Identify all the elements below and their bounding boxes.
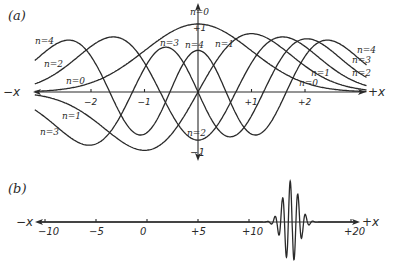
panel-a: (a) −2−1+1+2 −x +x +1 −1 n=4n=2n=0n=1n=3… <box>3 3 386 161</box>
curve-label: n=0 <box>66 76 85 86</box>
pos-x-label: +x <box>368 85 386 99</box>
panel-b-label: (b) <box>8 181 26 196</box>
y-plus-one-label: +1 <box>193 23 206 33</box>
wave-packet-curve <box>40 181 354 260</box>
neg-x-label: −x <box>3 85 21 99</box>
tick-label: −1 <box>138 97 151 107</box>
pos-x-label-b: +x <box>362 215 380 229</box>
curve-label: n=4 <box>185 40 204 50</box>
curve-label: n=4 <box>35 36 54 46</box>
curve-label: n=2 <box>187 128 206 138</box>
tick-label: +5 <box>191 226 206 237</box>
neg-x-label-b: −x <box>16 215 34 229</box>
tick-label: −2 <box>84 97 98 107</box>
curve-label: n=4 <box>357 45 376 55</box>
tick-label: 0 <box>140 226 146 237</box>
curve-label: n=1 <box>311 68 330 78</box>
tick-label: −5 <box>89 226 104 237</box>
tick-label: +1 <box>245 97 258 107</box>
curve-label: n=0 <box>190 7 209 17</box>
panel-b: (b) −10−50+5+10+20 −x +x <box>8 181 380 260</box>
tick-label: +10 <box>242 226 263 237</box>
curve-label: n=2 <box>44 59 63 69</box>
curve-label: n=1 <box>62 111 81 121</box>
curve-label: n=3 <box>40 127 59 137</box>
curve-label: n=3 <box>160 38 179 48</box>
curve-label: n=0 <box>299 78 318 88</box>
tick-label: −10 <box>38 226 59 237</box>
panel-a-label: (a) <box>8 8 26 23</box>
curve-label: n=2 <box>352 68 371 78</box>
figure: (a) −2−1+1+2 −x +x +1 −1 n=4n=2n=0n=1n=3… <box>0 0 395 267</box>
y-minus-one-label: −1 <box>190 147 205 158</box>
curve-label: n=1 <box>215 39 234 49</box>
tick-label: +2 <box>298 97 312 107</box>
curve-label: n=3 <box>352 55 371 65</box>
